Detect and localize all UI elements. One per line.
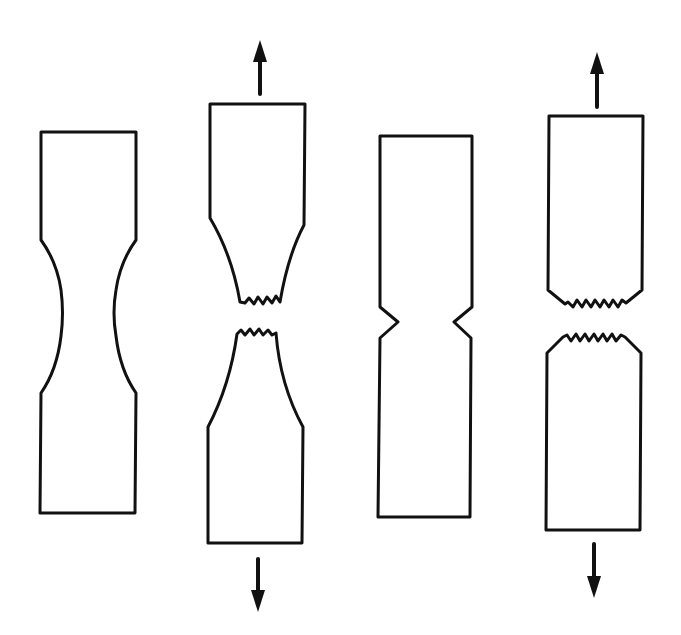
load-arrow-down: arrow-2-down — [587, 544, 601, 598]
diagram-svg: Smooth specimen with reduced (curved) ga… — [0, 0, 681, 635]
arrow-down-icon — [587, 576, 601, 598]
lower-fragment — [546, 334, 641, 530]
specimen-notched-fractured: Notched specimen fractured with little c… — [546, 52, 643, 598]
arrow-up-icon — [590, 52, 604, 74]
load-arrow-down: arrow-1-down — [251, 559, 265, 612]
arrow-up-icon — [253, 40, 267, 62]
arrow-down-icon — [251, 590, 265, 612]
specimen-unnotched-intact: Smooth specimen with reduced (curved) ga… — [40, 132, 136, 513]
lower-fragment — [208, 329, 303, 543]
load-arrow-up: arrow-2-up — [590, 52, 604, 107]
upper-fragment — [548, 116, 643, 307]
specimen-notched-intact: V-notched specimen — [378, 136, 472, 517]
tensile-specimens-diagram: Tensile test specimens: ductile (necking… — [0, 0, 681, 635]
upper-fragment — [210, 104, 305, 304]
specimen-unnotched-fractured: Smooth specimen fractured after necking … — [208, 40, 305, 612]
load-arrow-up: arrow-1-up — [253, 40, 267, 94]
